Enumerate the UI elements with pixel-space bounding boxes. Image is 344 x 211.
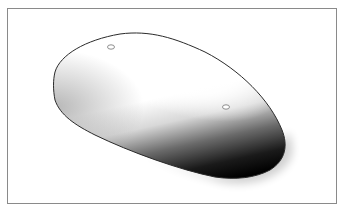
hole-rear-icon <box>223 105 230 109</box>
rendered-shell-shape <box>0 0 344 211</box>
hole-front-icon <box>108 45 115 49</box>
